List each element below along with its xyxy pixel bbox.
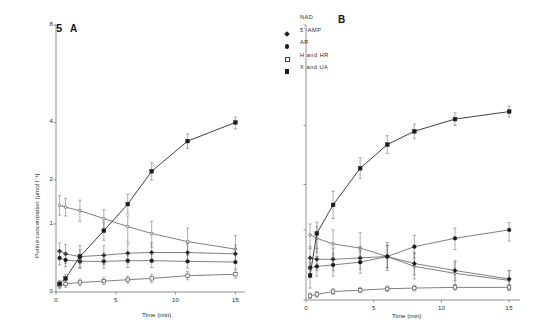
x-tick-label: 5 xyxy=(366,305,382,311)
series-line xyxy=(310,287,509,295)
data-point xyxy=(412,129,416,133)
data-point xyxy=(507,228,511,232)
figure-container: 5 A Purine concentration (µmol l⁻¹) Time… xyxy=(0,0,541,330)
data-point xyxy=(331,290,334,293)
data-point xyxy=(385,143,389,147)
x-tick-label: 10 xyxy=(433,305,449,311)
legend-label-x-ua: X and UA xyxy=(300,64,328,70)
data-point xyxy=(385,255,389,259)
data-point xyxy=(308,294,311,297)
legend-label-nad: NAD xyxy=(300,14,313,20)
data-point xyxy=(507,286,510,289)
data-point xyxy=(453,268,457,272)
data-point xyxy=(331,203,335,207)
data-point xyxy=(358,166,362,170)
data-point xyxy=(315,231,319,235)
series-line xyxy=(310,257,509,279)
square-open-icon xyxy=(285,57,290,62)
data-point xyxy=(332,243,335,246)
legend-item: X and UA xyxy=(284,64,364,77)
x-tick-label: 0 xyxy=(298,305,314,311)
data-point xyxy=(331,263,335,267)
panel-b-plot xyxy=(0,0,541,330)
data-point xyxy=(412,245,416,249)
legend-item: NAD xyxy=(284,14,364,27)
legend-item: H and HR xyxy=(284,52,364,65)
legend-item: 5'-AMP xyxy=(284,27,364,40)
data-point xyxy=(453,117,457,121)
x-tick-label: 15 xyxy=(501,305,517,311)
data-point xyxy=(308,274,312,278)
data-point xyxy=(358,288,361,291)
circle-filled-icon xyxy=(285,44,290,49)
legend: NAD 5'-AMP AR H and HR X and UA xyxy=(284,14,364,77)
legend-label-ar: AR xyxy=(300,39,309,45)
data-point xyxy=(453,286,456,289)
series-line xyxy=(310,235,509,281)
data-point xyxy=(358,260,362,264)
legend-label-amp: 5'-AMP xyxy=(300,27,321,33)
diamond-filled-icon xyxy=(284,31,290,37)
legend-label-h-hr: H and HR xyxy=(300,52,329,58)
data-point xyxy=(453,236,457,240)
data-point xyxy=(315,264,319,268)
legend-symbol-nad xyxy=(284,18,290,24)
data-point xyxy=(507,110,511,114)
data-point xyxy=(413,286,416,289)
data-point xyxy=(309,233,312,236)
data-point xyxy=(412,261,416,265)
data-point xyxy=(386,287,389,290)
series-line xyxy=(310,112,509,276)
legend-item: AR xyxy=(284,39,364,52)
data-point xyxy=(315,293,318,296)
square-filled-icon xyxy=(285,69,290,74)
